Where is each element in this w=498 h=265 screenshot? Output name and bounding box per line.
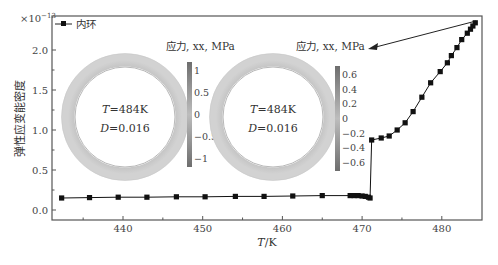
- data-point-marker-icon: [395, 127, 400, 132]
- data-point-marker-icon: [261, 194, 266, 199]
- colorbar-tick-label: −1: [194, 153, 208, 164]
- colorbar-tick-label: 0.6: [342, 69, 357, 80]
- x-tick-label: 480: [432, 223, 451, 234]
- right-ring-inset: T=484K D=0.016 应力, xx, MPa 0.60.40.20−0.…: [210, 40, 366, 181]
- y-tick-label: 2.0: [32, 45, 48, 56]
- arrowhead-icon: [368, 43, 378, 50]
- data-point-marker-icon: [454, 45, 459, 50]
- data-point-marker-icon: [290, 193, 295, 198]
- right-colorbar-title: 应力, xx, MPa: [296, 40, 365, 52]
- left-temp-label: T=484K: [102, 103, 149, 116]
- y-tick-label: 1.5: [32, 85, 48, 96]
- data-point-marker-icon: [473, 20, 478, 25]
- left-colorbar-title: 应力, xx, MPa: [166, 40, 235, 52]
- left-ring: [68, 60, 182, 174]
- data-point-marker-icon: [445, 60, 450, 65]
- colorbar-tick-label: −0.2: [342, 128, 365, 139]
- y-tick-label: 0.5: [32, 165, 48, 176]
- colorbar-tick-label: 0.5: [194, 87, 209, 98]
- colorbar-tick-label: 0: [194, 109, 200, 120]
- data-point-marker-icon: [116, 195, 121, 200]
- x-axis: 440450460470480: [83, 216, 451, 234]
- data-point-marker-icon: [379, 135, 384, 140]
- legend: 内环: [55, 18, 96, 30]
- legend-marker-icon: [61, 21, 66, 26]
- data-point-marker-icon: [87, 195, 92, 200]
- colorbar-tick-label: −0.4: [342, 142, 365, 153]
- data-point-marker-icon: [411, 109, 416, 114]
- colorbar-tick-label: 0.2: [342, 98, 357, 109]
- right-colorbar-ticks: 0.60.40.20−0.2−0.4−0.6: [342, 69, 365, 168]
- y-tick-label: 0.0: [32, 205, 48, 216]
- data-point-marker-icon: [419, 95, 424, 100]
- data-point-marker-icon: [320, 193, 325, 198]
- y-tick-label: 1.0: [32, 125, 48, 136]
- data-point-marker-icon: [449, 53, 454, 58]
- plot-frame: [52, 16, 482, 220]
- data-point-marker-icon: [367, 195, 372, 200]
- colorbar-tick-label: 1: [194, 65, 200, 76]
- data-point-marker-icon: [144, 195, 149, 200]
- x-tick-label: 450: [193, 223, 212, 234]
- y-axis-label: 弹性应变能密度: [13, 80, 27, 157]
- data-point-marker-icon: [202, 194, 207, 199]
- colorbar-tick-label: −0.6: [342, 157, 365, 168]
- left-colorbar: [187, 62, 192, 167]
- data-point-marker-icon: [438, 69, 443, 74]
- data-point-marker-icon: [459, 37, 464, 42]
- x-tick-label: 470: [353, 223, 372, 234]
- data-point-marker-icon: [59, 195, 64, 200]
- chart: 0.00.51.01.52.0 440450460470480 ×10−13 弹…: [0, 0, 498, 265]
- x-axis-label: T/K: [257, 236, 277, 249]
- data-point-marker-icon: [428, 80, 433, 85]
- y-multiplier: ×10−13: [20, 12, 56, 24]
- data-point-marker-icon: [174, 194, 179, 199]
- right-temp-label: T=484K: [250, 103, 297, 116]
- x-tick-label: 440: [113, 223, 132, 234]
- data-point-marker-icon: [369, 137, 374, 142]
- data-point-marker-icon: [387, 133, 392, 138]
- data-point-marker-icon: [403, 120, 408, 125]
- data-point-marker-icon: [233, 194, 238, 199]
- right-colorbar: [335, 66, 340, 171]
- left-damage-label: D=0.016: [99, 122, 150, 135]
- y-axis: 0.00.51.01.52.0: [32, 45, 56, 216]
- left-ring-inset: T=484K D=0.016 应力, xx, MPa 10.50−0.5−1: [62, 40, 235, 181]
- legend-label: 内环: [76, 18, 96, 30]
- x-tick-label: 460: [273, 223, 292, 234]
- colorbar-tick-label: 0.4: [342, 84, 357, 95]
- right-ring: [216, 60, 330, 174]
- annotation-arrow: [368, 21, 476, 50]
- right-damage-label: D=0.016: [247, 122, 298, 135]
- colorbar-tick-label: 0: [342, 113, 348, 124]
